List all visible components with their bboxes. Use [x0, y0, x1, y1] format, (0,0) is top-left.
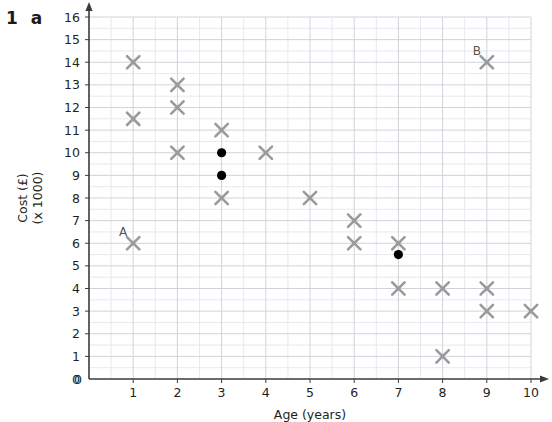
y-tick-label: 11: [64, 123, 80, 138]
y-tick-label: 5: [72, 258, 80, 273]
y-tick-label: 6: [72, 236, 80, 251]
y-axis-title-line1: Cost (£): [15, 173, 30, 222]
y-axis-ticks: 012345678910111213141516: [64, 10, 89, 387]
y-tick-label: 0: [72, 372, 80, 387]
x-tick-label: 6: [350, 385, 358, 400]
x-tick-label: 4: [262, 385, 270, 400]
scatter-chart: 012345678910 012345678910111213141516 AB…: [0, 0, 552, 422]
y-tick-label: 9: [72, 168, 80, 183]
x-tick-label: 9: [483, 385, 491, 400]
x-tick-label: 7: [394, 385, 402, 400]
point-label-b: B: [473, 44, 481, 58]
y-tick-label: 4: [72, 281, 80, 296]
y-tick-label: 3: [72, 304, 80, 319]
y-tick-label: 14: [64, 55, 80, 70]
x-tick-label: 2: [173, 385, 181, 400]
x-tick-label: 3: [218, 385, 226, 400]
y-tick-label: 7: [72, 213, 80, 228]
x-tick-label: 10: [523, 385, 539, 400]
y-tick-label: 16: [64, 10, 80, 25]
y-tick-label: 12: [64, 100, 80, 115]
y-tick-label: 10: [64, 145, 80, 160]
point-label-a: A: [119, 225, 128, 239]
y-tick-label: 13: [64, 77, 80, 92]
y-tick-label: 1: [72, 349, 80, 364]
data-point-dot: [217, 171, 226, 180]
y-tick-label: 8: [72, 191, 80, 206]
x-axis-ticks: 012345678910: [74, 372, 539, 400]
x-tick-label: 1: [129, 385, 137, 400]
y-tick-label: 2: [72, 326, 80, 341]
x-tick-label: 8: [439, 385, 447, 400]
x-tick-label: 5: [306, 385, 314, 400]
x-axis-title: Age (years): [274, 407, 346, 422]
data-point-dot: [394, 250, 403, 259]
y-tick-label: 15: [64, 32, 80, 47]
data-point-dot: [217, 148, 226, 157]
y-axis-title-line2: (x 1000): [30, 172, 45, 225]
